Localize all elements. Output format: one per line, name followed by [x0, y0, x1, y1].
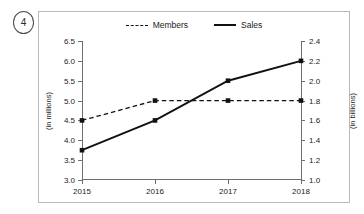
data-point-marker-members — [226, 98, 231, 103]
data-point-marker-sales — [299, 59, 304, 64]
legend-entry-members: Members — [126, 21, 188, 30]
right-tick-label: 1.8 — [309, 96, 320, 105]
chart-frame: Members Sales (in millions) (in billions… — [38, 11, 350, 203]
series-line-members — [82, 101, 301, 121]
right-tick-mark — [301, 140, 305, 141]
data-point-marker-members — [80, 118, 85, 123]
figure-root: 4 Members Sales (in millions) (in billio… — [0, 0, 364, 214]
series-line-sales — [82, 61, 301, 150]
right-tick-mark — [301, 160, 305, 161]
right-tick-label: 2.0 — [309, 76, 320, 85]
x-tick-mark — [228, 180, 229, 184]
data-point-marker-members — [299, 98, 304, 103]
legend-swatch-dashed-icon — [126, 25, 148, 26]
left-tick-label: 5.5 — [64, 76, 75, 85]
left-tick-label: 4.0 — [64, 136, 75, 145]
right-tick-label: 1.2 — [309, 156, 320, 165]
data-point-marker-sales — [226, 78, 231, 83]
right-tick-mark — [301, 81, 305, 82]
legend-entry-sales: Sales — [214, 21, 262, 30]
legend-label-members: Members — [153, 21, 188, 30]
right-tick-label: 2.4 — [309, 37, 320, 46]
x-tick-label: 2017 — [219, 187, 237, 196]
x-tick-label: 2015 — [73, 187, 91, 196]
left-tick-label: 4.5 — [64, 116, 75, 125]
right-tick-label: 1.4 — [309, 136, 320, 145]
left-tick-label: 3.5 — [64, 156, 75, 165]
right-tick-mark — [301, 41, 305, 42]
data-point-marker-sales — [80, 148, 85, 153]
right-tick-label: 2.2 — [309, 56, 320, 65]
plot-wrapper: (in millions) (in billions) 3.03.54.04.5… — [82, 41, 301, 180]
left-tick-label: 6.5 — [64, 37, 75, 46]
right-tick-label: 1.6 — [309, 116, 320, 125]
chart-legend: Members Sales — [39, 21, 349, 30]
data-point-marker-sales — [153, 118, 158, 123]
item-number-badge: 4 — [13, 11, 34, 34]
x-tick-mark — [301, 180, 302, 184]
right-axis-title: (in billions) — [348, 93, 357, 129]
legend-label-sales: Sales — [241, 21, 262, 30]
x-tick-label: 2016 — [146, 187, 164, 196]
x-tick-label: 2018 — [292, 187, 310, 196]
data-point-marker-members — [153, 98, 158, 103]
left-axis-title: (in millions) — [44, 92, 53, 130]
series-layer — [82, 41, 301, 180]
left-tick-label: 6.0 — [64, 56, 75, 65]
right-tick-mark — [301, 120, 305, 121]
left-tick-label: 3.0 — [64, 176, 75, 185]
left-tick-label: 5.0 — [64, 96, 75, 105]
x-tick-mark — [155, 180, 156, 184]
x-tick-mark — [82, 180, 83, 184]
right-tick-label: 1.0 — [309, 176, 320, 185]
legend-swatch-solid-icon — [214, 24, 236, 26]
